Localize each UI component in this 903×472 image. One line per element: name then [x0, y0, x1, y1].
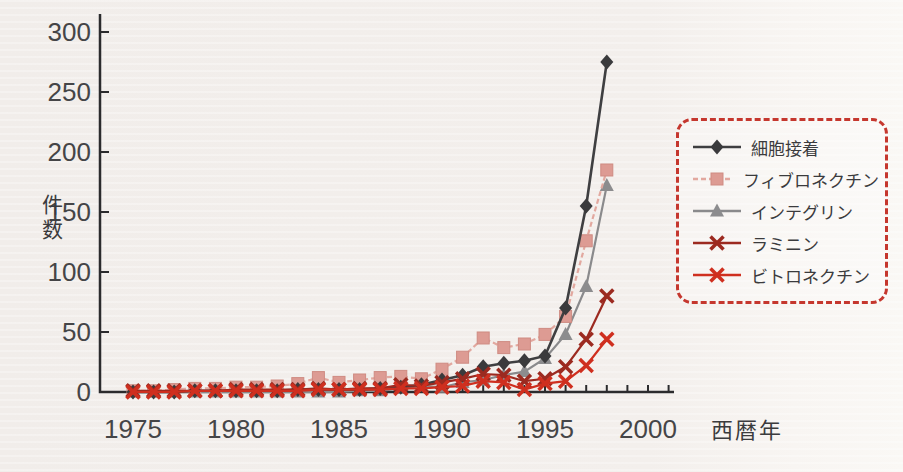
legend-item-integrin: インテグリン	[693, 199, 879, 224]
x-tick-labels: 197519801985199019952000	[104, 414, 677, 444]
legend-label: フィブロネクチン	[743, 167, 879, 192]
legend: 細胞接着フィブロネクチンインテグリンラミニンビトロネクチン	[676, 118, 888, 304]
legend-marker-triangle-icon	[693, 201, 741, 221]
x-axis-title: 西暦年	[711, 412, 783, 444]
x-tick-label: 1975	[104, 414, 162, 444]
legend-marker-diamond-icon	[693, 137, 741, 157]
series-integrin	[126, 178, 614, 397]
x-tick-label: 1995	[516, 414, 574, 444]
legend-label: インテグリン	[751, 199, 853, 224]
y-ticks	[100, 32, 109, 332]
series-cell-adhesion	[127, 55, 614, 400]
x-tick-label: 1985	[310, 414, 368, 444]
legend-marker-x-icon	[693, 233, 741, 253]
y-tick-label: 100	[48, 257, 91, 287]
x-tick-label: 1980	[207, 414, 265, 444]
y-tick-label: 250	[48, 77, 91, 107]
legend-item-fibronectin: フィブロネクチン	[693, 167, 879, 192]
legend-label: ラミニン	[751, 231, 819, 256]
y-axis-title: 件数	[36, 194, 66, 244]
legend-label: ビトロネクチン	[751, 263, 870, 288]
legend-item-laminin: ラミニン	[693, 231, 879, 256]
legend-item-vitronectin: ビトロネクチン	[693, 263, 879, 288]
y-tick-label: 300	[48, 17, 91, 47]
legend-marker-square-icon	[693, 169, 733, 189]
y-tick-label: 50	[62, 317, 91, 347]
legend-marker-x-icon	[693, 265, 741, 285]
legend-label: 細胞接着	[751, 135, 819, 160]
legend-item-cell-adhesion: 細胞接着	[693, 135, 879, 160]
x-tick-label: 2000	[619, 414, 677, 444]
y-tick-label: 0	[77, 377, 91, 407]
x-tick-label: 1990	[413, 414, 471, 444]
y-tick-label: 200	[48, 137, 91, 167]
